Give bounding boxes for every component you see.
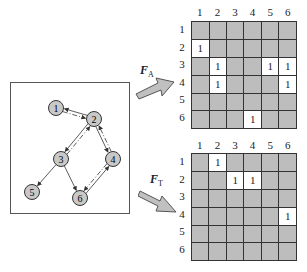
matrix-cell <box>279 225 297 243</box>
matrix-cell: 1 <box>261 57 279 75</box>
matrix-cell: 1 <box>279 57 297 75</box>
matrix-row: 111 <box>192 57 297 75</box>
fa-matrix: 1111111 <box>191 21 297 127</box>
matrix-cell <box>261 243 278 261</box>
dashed-edge <box>84 164 107 191</box>
row-label: 1 <box>176 21 188 39</box>
matrix-cell: 1 <box>209 75 227 93</box>
matrix-cell <box>209 111 227 129</box>
column-label: 1 <box>191 6 209 18</box>
matrix-cell: 1 <box>244 172 262 190</box>
matrix-cell <box>209 172 227 190</box>
matrix-cell <box>244 39 262 57</box>
row-label: 6 <box>176 109 188 127</box>
matrix-cell <box>192 57 210 75</box>
matrix-cell <box>244 154 262 172</box>
row-label: 4 <box>176 206 188 224</box>
matrix-cell <box>244 93 262 111</box>
matrix-row: 1 <box>192 207 297 225</box>
svg-text:4: 4 <box>111 154 116 165</box>
matrix-cell <box>209 225 227 243</box>
matrix-cell: 1 <box>209 57 227 75</box>
matrix-cell <box>244 243 262 261</box>
matrix-row <box>192 22 297 40</box>
matrix-cell <box>192 190 209 208</box>
column-label: 4 <box>244 139 262 151</box>
matrix-row: 1 <box>192 111 297 129</box>
column-label: 3 <box>226 139 244 151</box>
graph-node-6: 6 <box>73 191 88 206</box>
row-label: 4 <box>176 74 188 92</box>
graph-node-2: 2 <box>87 112 102 127</box>
svg-text:6: 6 <box>78 193 83 204</box>
matrix-cell <box>209 243 227 261</box>
graph-node-4: 4 <box>106 152 121 167</box>
matrix-cell <box>279 93 297 111</box>
solid-edge <box>65 109 88 116</box>
ft-column-labels: 123456 <box>191 139 297 151</box>
column-label: 2 <box>209 6 227 18</box>
directed-graph: 123456 <box>11 83 131 215</box>
svg-text:2: 2 <box>92 114 97 125</box>
matrix-cell <box>209 39 227 57</box>
column-label: 6 <box>279 139 297 151</box>
matrix-cell <box>227 39 244 57</box>
matrix-row <box>192 225 297 243</box>
svg-text:1: 1 <box>54 103 59 114</box>
column-label: 5 <box>261 6 279 18</box>
ft-row-labels: 123456 <box>176 153 188 259</box>
matrix-cell: 1 <box>279 75 297 93</box>
ft-label-main: F <box>150 172 158 186</box>
solid-edge <box>64 166 76 191</box>
dashed-edge <box>63 112 86 119</box>
matrix-cell <box>227 111 244 129</box>
matrix-cell <box>192 75 210 93</box>
matrix-row: 1 <box>192 154 297 172</box>
fa-label-main: F <box>140 63 148 77</box>
matrix-cell <box>279 39 297 57</box>
solid-edge <box>86 167 109 194</box>
matrix-cell <box>261 172 278 190</box>
matrix-row: 11 <box>192 172 297 190</box>
matrix-cell <box>279 22 297 40</box>
matrix-cell <box>261 111 279 129</box>
matrix-cell <box>209 207 227 225</box>
row-label: 2 <box>176 171 188 189</box>
matrix-cell <box>209 93 227 111</box>
matrix-cell <box>192 207 209 225</box>
matrix-cell <box>192 154 209 172</box>
matrix-cell <box>279 111 297 129</box>
matrix-cell <box>209 190 227 208</box>
matrix-cell: 1 <box>279 207 297 225</box>
matrix-cell <box>227 22 244 40</box>
ft-label: FT <box>150 172 163 188</box>
column-label: 1 <box>191 139 209 151</box>
matrix-cell <box>226 225 244 243</box>
matrix-cell <box>261 190 278 208</box>
matrix-cell <box>261 154 278 172</box>
matrix-row <box>192 190 297 208</box>
matrix-cell <box>244 75 262 93</box>
column-label: 6 <box>279 6 297 18</box>
graph-node-3: 3 <box>54 152 69 167</box>
matrix-cell: 1 <box>226 172 244 190</box>
dashed-edge <box>99 126 111 152</box>
row-label: 5 <box>176 91 188 109</box>
graph-node-1: 1 <box>49 101 64 116</box>
matrix-cell <box>192 111 210 129</box>
matrix-cell <box>192 22 210 40</box>
matrix-cell <box>227 57 244 75</box>
matrix-cell <box>226 243 244 261</box>
matrix-cell <box>226 207 244 225</box>
matrix-cell <box>226 190 244 208</box>
matrix-cell <box>192 172 209 190</box>
matrix-cell <box>192 93 210 111</box>
graph-panel: 123456 <box>10 82 130 214</box>
matrix-cell: 1 <box>192 39 210 57</box>
graph-node-5: 5 <box>25 185 40 200</box>
row-label: 2 <box>176 39 188 57</box>
matrix-cell <box>244 57 262 75</box>
fa-column-labels: 123456 <box>191 6 297 18</box>
matrix-row: 1 <box>192 39 297 57</box>
row-label: 5 <box>176 223 188 241</box>
